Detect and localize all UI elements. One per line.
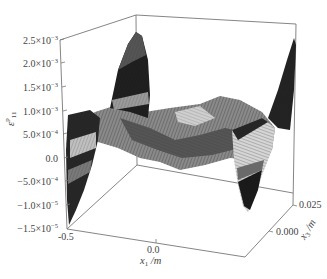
z-tick-label: 0.0 (2, 153, 58, 164)
x-tick-label: 0.0 (147, 245, 160, 255)
z-tick-label: 2.0×10−3 (2, 58, 58, 69)
z-axis-title: εp11 (4, 112, 18, 126)
z-tick-label: 1.5×10−3 (2, 82, 58, 93)
z-tick-label: −5.0×10−4 (2, 176, 58, 187)
x-axis-title: x1 /m (140, 256, 161, 268)
z-tick-label: 5.0×10−4 (2, 129, 58, 140)
z-tick-label: 2.5×10−3 (2, 35, 58, 46)
y-tick-label: 0.000 (276, 227, 299, 237)
z-tick-label: −1.0×10−5 (2, 200, 58, 211)
y-tick-label: 0.025 (299, 200, 322, 210)
z-tick-label: −1.5×10−5 (2, 223, 58, 234)
x-tick-label: -0.5 (58, 232, 74, 242)
surface-mesh (66, 32, 296, 225)
